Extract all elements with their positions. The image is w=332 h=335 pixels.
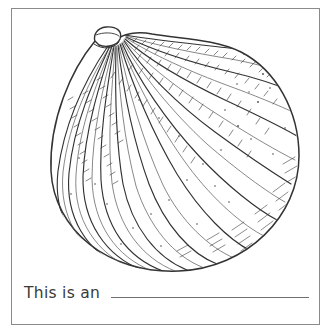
onion-neck [94,27,120,46]
worksheet-page: This is an [0,0,332,335]
caption-row: This is an [24,286,309,312]
onion-outline [51,33,299,271]
onion-illustration-svg [11,8,320,278]
answer-blank-line[interactable] [111,297,309,298]
onion-line-drawing [11,8,320,278]
caption-prompt-text: This is an [24,286,100,302]
onion-body-group [51,27,299,271]
